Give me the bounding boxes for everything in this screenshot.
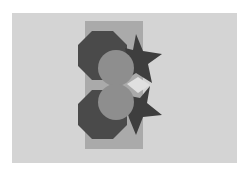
shape-composition: [0, 0, 250, 174]
bottom-circle: [98, 84, 134, 120]
top-circle: [98, 50, 134, 86]
